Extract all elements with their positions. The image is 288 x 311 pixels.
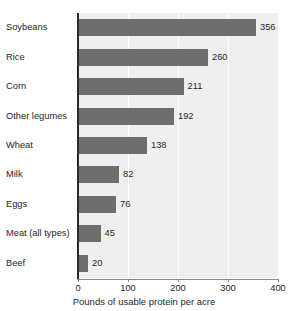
gridline [228, 13, 229, 278]
category-label: Wheat [0, 140, 73, 151]
category-label: Milk [0, 169, 73, 180]
x-axis-tick-label: 400 [270, 283, 286, 294]
x-axis-tick-label: 100 [120, 283, 136, 294]
bar [78, 255, 88, 272]
bar [78, 19, 256, 36]
bar-value-label: 45 [105, 228, 115, 239]
bar-value-label: 20 [92, 258, 102, 269]
bar-value-label: 138 [151, 140, 167, 151]
category-label: Eggs [0, 199, 73, 210]
bar-value-label: 211 [188, 81, 203, 92]
x-axis-tick [228, 279, 229, 282]
bar-value-label: 192 [178, 111, 194, 122]
x-axis-tick [278, 279, 279, 282]
x-axis-tick-label: 0 [75, 283, 80, 294]
bar [78, 166, 119, 183]
x-axis-tick [78, 279, 79, 282]
y-axis-line [77, 13, 79, 280]
category-label: Rice [0, 52, 73, 63]
bar [78, 196, 116, 213]
bar [78, 225, 101, 242]
category-label: Other legumes [0, 111, 73, 122]
bar-value-label: 356 [260, 22, 276, 33]
category-axis: SoybeansRiceCornOther legumesWheatMilkEg… [0, 13, 76, 278]
x-axis-title: Pounds of usable protein per acre [0, 296, 288, 308]
bar-value-label: 76 [120, 199, 130, 210]
category-label: Soybeans [0, 22, 73, 33]
chart-title-clipped [0, 0, 288, 5]
category-label: Corn [0, 81, 73, 92]
x-axis-tick [128, 279, 129, 282]
plot-area: 35626021119213882764520 [78, 13, 278, 278]
gridline [278, 13, 279, 278]
bar [78, 108, 174, 125]
bar-value-label: 82 [123, 169, 133, 180]
category-label: Meat (all types) [0, 228, 73, 239]
bar [78, 49, 208, 66]
x-axis-tick-label: 200 [170, 283, 186, 294]
bar-chart-figure: SoybeansRiceCornOther legumesWheatMilkEg… [0, 0, 288, 311]
bar [78, 78, 184, 95]
x-axis-tick [178, 279, 179, 282]
bar-value-label: 260 [212, 52, 228, 63]
category-label: Beef [0, 258, 73, 269]
bar [78, 137, 147, 154]
x-axis-tick-label: 300 [220, 283, 236, 294]
